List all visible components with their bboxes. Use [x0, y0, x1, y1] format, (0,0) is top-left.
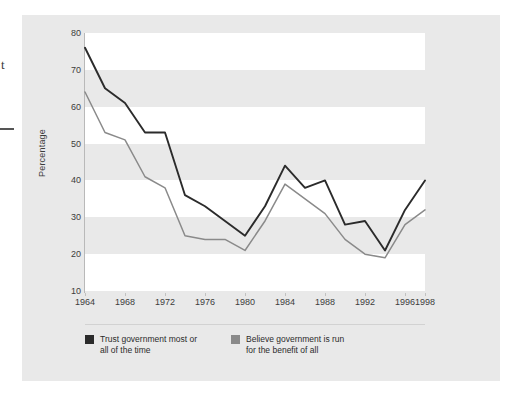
x-tick-label: 1992: [345, 297, 385, 308]
x-tick-label: 1976: [185, 297, 225, 308]
x-axis-tick: [85, 293, 86, 296]
x-axis-tick: [125, 293, 126, 296]
x-tick-label: 1964: [65, 297, 105, 308]
legend-label: Believe government is run for the benefi…: [246, 334, 344, 356]
x-tick-label: 1980: [225, 297, 265, 308]
x-axis-tick: [365, 293, 366, 296]
chart-legend: Trust government most or all of the time…: [85, 334, 425, 368]
x-axis-tick: [425, 293, 426, 296]
x-tick-label: 1972: [145, 297, 185, 308]
legend-entry[interactable]: Trust government most or all of the time: [85, 334, 197, 356]
x-axis-tick: [165, 293, 166, 296]
chart-page: t 8070605040302010 Percentage 1964196819…: [0, 0, 522, 396]
x-axis-tick: [205, 293, 206, 296]
legend-swatch-icon: [231, 335, 240, 344]
x-axis-tick: [325, 293, 326, 296]
legend-entry[interactable]: Believe government is run for the benefi…: [231, 334, 344, 356]
x-tick-label: 1984: [265, 297, 305, 308]
legend-label: Trust government most or all of the time: [100, 334, 197, 356]
x-axis-tick: [405, 293, 406, 296]
x-axis-tick: [245, 293, 246, 296]
x-axis-tick: [285, 293, 286, 296]
x-tick-label: 1988: [305, 297, 345, 308]
legend-divider: [85, 324, 425, 325]
x-tick-label: 1998: [405, 297, 445, 308]
x-tick-label: 1968: [105, 297, 145, 308]
legend-swatch-icon: [85, 335, 94, 344]
